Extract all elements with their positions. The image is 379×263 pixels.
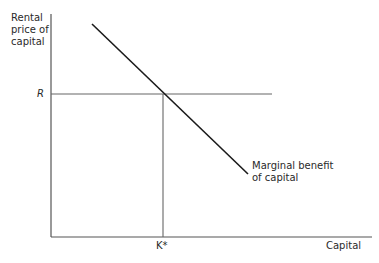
chart-canvas bbox=[0, 0, 379, 263]
marginal-benefit-curve bbox=[92, 24, 248, 174]
curve-label: Marginal benefit of capital bbox=[252, 160, 342, 184]
r-tick-label: R bbox=[37, 88, 44, 100]
x-axis-label: Capital bbox=[326, 240, 361, 252]
y-axis-label: Rental price of capital bbox=[11, 12, 51, 48]
k-star-tick-label: K* bbox=[156, 240, 168, 252]
